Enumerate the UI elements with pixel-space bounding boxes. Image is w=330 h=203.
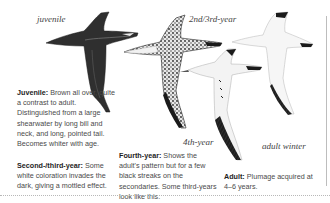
caption-juvenile-heading: Juvenile: [17,88,48,97]
label-adult-winter: adult winter [262,141,306,151]
dotted-divider [0,195,330,196]
caption-fourth-year-heading: Fourth-year: [119,151,161,160]
label-fourth-year: 4th-year [183,137,214,147]
caption-juvenile: Juvenile: Brown all over, quite a contra… [17,88,117,149]
caption-juvenile-text: Brown all over, quite a contrast to adul… [17,88,115,148]
caption-second-third-year: Second-/third-year: Some white coloratio… [17,161,119,192]
label-juvenile: juvenile [37,14,66,24]
vertical-rule [326,16,327,186]
label-second-third-year: 2nd/3rd-year [189,14,236,24]
adult-winter-bird-illustration [232,12,313,115]
caption-adult: Adult: Plumage acquired at 4–6 years. [224,172,320,192]
caption-second-third-year-heading: Second-/third-year: [17,161,83,170]
caption-adult-heading: Adult: [224,172,245,181]
